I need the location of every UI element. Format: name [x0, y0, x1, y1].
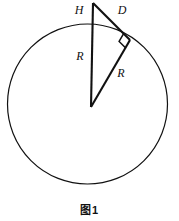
circle-outline	[8, 24, 168, 184]
label-distance-D: D	[117, 3, 127, 17]
geometry-diagram: H D R R	[0, 0, 179, 221]
label-radius-tangent-R: R	[116, 66, 125, 80]
label-radius-vertical-R: R	[75, 49, 84, 63]
label-height-H: H	[74, 3, 85, 17]
height-segment-line	[91, 3, 93, 107]
figure-container: H D R R 图1	[0, 0, 179, 221]
figure-caption: 图1	[0, 201, 179, 217]
